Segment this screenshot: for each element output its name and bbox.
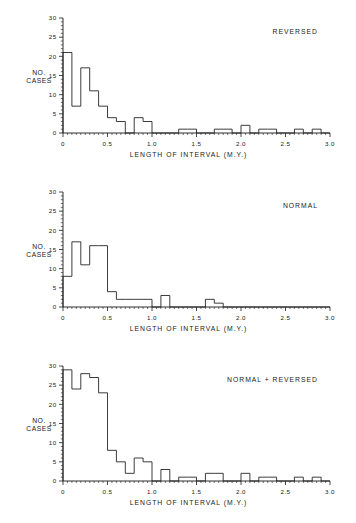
- chart-normal-plus-reversed: 05101520253000.51.01.52.02.53.0NORMAL + …: [0, 348, 356, 522]
- x-tick-label: 3.0: [325, 488, 335, 495]
- x-tick-label: 0.5: [103, 314, 113, 321]
- x-tick-label: 2.5: [281, 488, 291, 495]
- panel-title: REVERSED: [273, 28, 318, 35]
- x-axis-title: LENGTH OF INTERVAL (M.Y.): [130, 499, 248, 507]
- y-tick-label: 30: [49, 188, 57, 195]
- x-tick-label: 1.5: [192, 488, 202, 495]
- x-tick-label: 0: [61, 488, 65, 495]
- x-tick-label: 0.5: [103, 140, 113, 147]
- histogram-outline: [63, 242, 330, 307]
- chart-normal: 05101520253000.51.01.52.02.53.0NORMALNO.…: [0, 174, 356, 348]
- x-tick-label: 2.0: [236, 140, 246, 147]
- x-axis-title: LENGTH OF INTERVAL (M.Y.): [130, 151, 248, 159]
- histogram-outline: [63, 370, 330, 481]
- y-axis-label-line2: CASES: [26, 425, 52, 432]
- y-tick-label: 20: [49, 53, 57, 60]
- y-tick-label: 10: [49, 439, 57, 446]
- y-tick-label: 0: [53, 477, 57, 484]
- y-axis-label-line1: NO.: [32, 243, 46, 250]
- x-tick-label: 1.5: [192, 314, 202, 321]
- y-tick-label: 0: [53, 303, 57, 310]
- y-tick-label: 0: [53, 129, 57, 136]
- histogram-outline: [63, 53, 330, 134]
- panel-normal: 05101520253000.51.01.52.02.53.0NORMALNO.…: [0, 174, 356, 348]
- panel-normal-plus-reversed: 05101520253000.51.01.52.02.53.0NORMAL + …: [0, 348, 356, 522]
- panel-title: NORMAL + REVERSED: [227, 376, 318, 383]
- x-axis-title: LENGTH OF INTERVAL (M.Y.): [130, 325, 248, 333]
- y-tick-label: 20: [49, 227, 57, 234]
- y-tick-label: 30: [49, 14, 57, 21]
- y-axis-label-line2: CASES: [26, 251, 52, 258]
- x-tick-label: 3.0: [325, 314, 335, 321]
- y-tick-label: 5: [53, 458, 57, 465]
- x-tick-label: 1.5: [192, 140, 202, 147]
- x-tick-label: 3.0: [325, 140, 335, 147]
- x-tick-label: 0: [61, 314, 65, 321]
- y-tick-label: 30: [49, 362, 57, 369]
- y-tick-label: 25: [49, 33, 57, 40]
- panel-reversed: 05101520253000.51.01.52.02.53.0REVERSEDN…: [0, 0, 356, 174]
- x-tick-label: 1.0: [147, 140, 157, 147]
- panel-title: NORMAL: [283, 202, 318, 209]
- histogram-figure: 05101520253000.51.01.52.02.53.0REVERSEDN…: [0, 0, 356, 523]
- y-tick-label: 10: [49, 265, 57, 272]
- y-tick-label: 5: [53, 110, 57, 117]
- y-tick-label: 5: [53, 284, 57, 291]
- y-tick-label: 20: [49, 401, 57, 408]
- y-tick-label: 25: [49, 207, 57, 214]
- x-tick-label: 2.5: [281, 140, 291, 147]
- x-tick-label: 1.0: [147, 314, 157, 321]
- chart-reversed: 05101520253000.51.01.52.02.53.0REVERSEDN…: [0, 0, 356, 174]
- x-tick-label: 2.5: [281, 314, 291, 321]
- y-axis-label-line1: NO.: [32, 69, 46, 76]
- x-tick-label: 0: [61, 140, 65, 147]
- x-tick-label: 2.0: [236, 314, 246, 321]
- y-tick-label: 25: [49, 381, 57, 388]
- y-axis-label-line1: NO.: [32, 417, 46, 424]
- x-tick-label: 0.5: [103, 488, 113, 495]
- y-axis-label-line2: CASES: [26, 77, 52, 84]
- x-tick-label: 1.0: [147, 488, 157, 495]
- x-tick-label: 2.0: [236, 488, 246, 495]
- y-tick-label: 10: [49, 91, 57, 98]
